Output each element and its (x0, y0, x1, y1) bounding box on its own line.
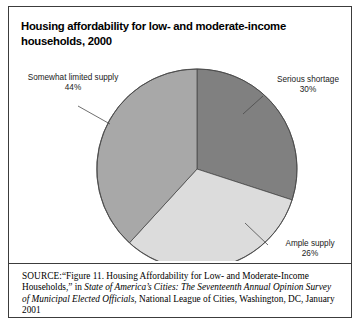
label-serious-shortage-name: Serious shortage (277, 75, 339, 84)
label-ample-supply: Ample supply 26% (271, 239, 349, 259)
figure-container: Housing affordability for low- and moder… (8, 6, 352, 318)
pie-chart-svg (9, 7, 351, 261)
label-ample-supply-value: 26% (302, 249, 318, 258)
pie-chart: Somewhat limited supply 44% Serious shor… (9, 7, 351, 261)
label-serious-shortage: Serious shortage 30% (267, 75, 349, 95)
label-somewhat-limited-supply-value: 44% (65, 83, 81, 92)
source-label: SOURCE: (22, 271, 62, 281)
label-serious-shortage-value: 30% (300, 85, 316, 94)
label-somewhat-limited-supply: Somewhat limited supply 44% (23, 73, 123, 93)
leader-line-somewhat-limited-supply (78, 106, 110, 124)
source-note: SOURCE:“Figure 11. Housing Affordability… (22, 271, 338, 317)
label-ample-supply-name: Ample supply (285, 239, 334, 248)
label-somewhat-limited-supply-name: Somewhat limited supply (28, 73, 119, 82)
source-divider (9, 263, 351, 264)
